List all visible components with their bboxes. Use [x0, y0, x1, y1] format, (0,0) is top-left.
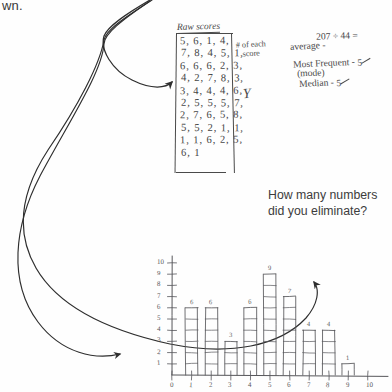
- x-axis-tick-label: 3: [228, 381, 232, 389]
- box-bottom-border: [176, 172, 226, 173]
- y-axis-tick-label: 4: [157, 325, 161, 333]
- raw-score-row: 6, 1: [180, 146, 232, 159]
- raw-score-row: 7, 8, 4, 5, 1,: [180, 47, 232, 60]
- y-axis-tick-label: 1: [157, 359, 161, 367]
- raw-score-row: 2, 5, 5, 5, 7,: [180, 97, 232, 110]
- bar-value-label: 9: [268, 264, 272, 271]
- bar-value-label: 3: [229, 331, 233, 338]
- raw-scores-title: Raw scores: [177, 21, 220, 34]
- x-axis-tick-label: 7: [307, 381, 311, 389]
- count-each-score-line2: score: [236, 48, 266, 59]
- raw-score-row: 3, 4, 4, 4, 6,: [180, 84, 232, 97]
- chart-canvas: [150, 250, 392, 392]
- median-line: Median - 5: [299, 76, 342, 89]
- raw-scores-list: 5, 6, 1, 4, 7, 8, 4, 5, 1, 6, 6, 6, 2, 3…: [180, 35, 232, 159]
- question-text: How many numbers did you eliminate?: [268, 188, 392, 219]
- y-axis-tick-label: 3: [157, 336, 161, 344]
- x-axis-tick-label: 2: [208, 381, 212, 389]
- x-axis-tick-label: 10: [365, 381, 372, 389]
- x-axis-tick-label: 6: [287, 381, 291, 389]
- raw-score-row: 2, 7, 6, 5, 8,: [180, 109, 232, 122]
- y-axis-tick-label: 5: [157, 314, 161, 322]
- y-axis-tick-label: 9: [157, 269, 161, 277]
- worksheet-scan: wn. Raw scores 5, 6, 1, 4, 7, 8, 4, 5, 1…: [0, 0, 392, 392]
- raw-score-row: 1, 1, 6, 2, 5,: [180, 134, 232, 147]
- x-axis-tick-label: 4: [248, 381, 252, 389]
- raw-score-row: 5, 5, 2, 1, 1,: [180, 122, 232, 135]
- bar-value-label: 7: [287, 286, 291, 293]
- raw-score-row: 6, 6, 6, 2, 3,: [180, 59, 232, 72]
- y-axis-tick-label: 10: [157, 258, 164, 266]
- y-axis-tick-label: 7: [157, 291, 161, 299]
- raw-scores-box: 5, 6, 1, 4, 7, 8, 4, 5, 1, 6, 6, 6, 2, 3…: [176, 33, 233, 173]
- bar-value-label: 4: [327, 320, 331, 327]
- x-axis-tick-label: 8: [326, 381, 330, 389]
- y-axis-tick-label: 2: [157, 348, 161, 356]
- average-label: average -: [290, 39, 326, 52]
- raw-score-row: 5, 6, 1, 4,: [180, 35, 232, 48]
- median-label: Median -: [299, 76, 334, 89]
- y-axis-tick-label: 8: [157, 280, 161, 288]
- question-line-2: did you eliminate?: [268, 204, 392, 220]
- x-axis-tick-label: 0: [169, 381, 173, 389]
- arrow-to-chart: [18, 1, 150, 356]
- x-axis-tick-label: 5: [267, 381, 271, 389]
- raw-score-row: 4, 2, 7, 8, 3,: [180, 72, 232, 85]
- median-value: 5: [336, 77, 341, 88]
- count-each-score-annotation: # of each score: [236, 39, 267, 59]
- arrow-to-raw-scores: [103, 0, 172, 87]
- question-line-1: How many numbers: [268, 188, 392, 204]
- bar-value-label: 4: [307, 320, 311, 327]
- x-axis-tick-label: 1: [189, 381, 193, 389]
- bar-value-label: 6: [189, 298, 193, 305]
- x-axis-tick-label: 9: [346, 381, 350, 389]
- y-axis-letter-annotation: Y: [242, 86, 251, 103]
- box-left-border: [175, 33, 178, 173]
- hand-drawn-bar-chart: 12345678910016263346596774849110: [150, 250, 392, 392]
- cut-off-text: wn.: [2, 0, 23, 13]
- most-frequent-value: 5: [357, 56, 362, 67]
- y-axis-tick-label: 6: [157, 303, 161, 311]
